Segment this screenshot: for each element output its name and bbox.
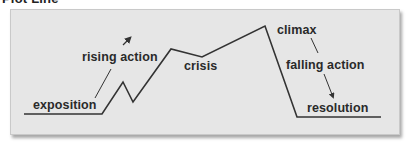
label-climax: climax xyxy=(277,23,317,37)
rising-action-arrow-icon xyxy=(123,38,130,45)
label-rising-action: rising action xyxy=(82,50,158,64)
rising-action-leader xyxy=(95,69,111,98)
label-falling-action: falling action xyxy=(286,58,365,72)
label-exposition: exposition xyxy=(33,98,97,112)
falling-action-arrow-icon xyxy=(324,74,333,97)
climax-leader xyxy=(311,38,318,53)
label-crisis: crisis xyxy=(184,59,217,73)
label-resolution: resolution xyxy=(307,101,368,115)
